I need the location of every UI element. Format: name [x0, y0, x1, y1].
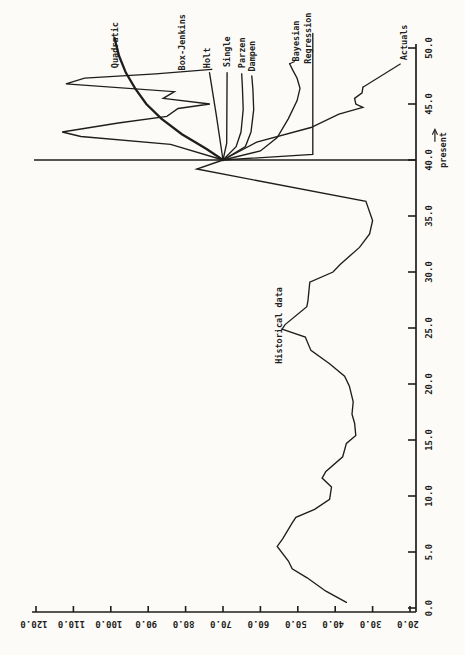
paper-background [0, 0, 465, 655]
label-parzen: Parzen [237, 37, 247, 68]
value-tick-label: 60.0 [248, 619, 270, 629]
time-tick-label: 30.0 [424, 261, 434, 283]
time-tick-label: 0.0 [424, 600, 434, 616]
time-tick-label: 50.0 [424, 37, 434, 59]
value-tick-label: 120.0 [20, 619, 47, 629]
value-tick-label: 80.0 [173, 619, 195, 629]
time-tick-label: 15.0 [424, 429, 434, 451]
value-tick-label: 110.0 [58, 619, 85, 629]
value-tick-label: 90.0 [135, 619, 157, 629]
label-dampen: Dampen [247, 41, 257, 72]
value-tick-label: 20.0 [397, 619, 419, 629]
value-tick-label: 100.0 [95, 619, 122, 629]
time-tick-label: 5.0 [424, 544, 434, 560]
time-tick-label: 40.0 [424, 149, 434, 171]
value-tick-label: 30.0 [360, 619, 382, 629]
time-tick-label: 20.0 [424, 373, 434, 395]
label-bayesian: Bayesian [291, 20, 301, 61]
time-tick-label: 10.0 [424, 485, 434, 507]
forecast-comparison-chart: 0.05.010.015.020.025.030.035.040.045.050… [0, 0, 465, 655]
time-tick-label: 25.0 [424, 317, 434, 339]
label-quadratic: Quadratic [110, 22, 120, 68]
present-label: present [438, 132, 448, 168]
label-historical-data: Historical data [274, 287, 284, 364]
label-regression: Regression [303, 12, 313, 63]
value-tick-label: 40.0 [322, 619, 344, 629]
label-box-jenkins: Box-Jenkins [177, 14, 187, 70]
label-single: Single [222, 36, 232, 67]
time-tick-label: 35.0 [424, 205, 434, 227]
label-holt: Holt [202, 48, 212, 68]
scanned-chart-page: 0.05.010.015.020.025.030.035.040.045.050… [0, 0, 465, 655]
value-tick-label: 70.0 [210, 619, 232, 629]
label-actuals: Actuals [399, 24, 409, 60]
value-tick-label: 50.0 [285, 619, 307, 629]
time-tick-label: 45.0 [424, 93, 434, 115]
